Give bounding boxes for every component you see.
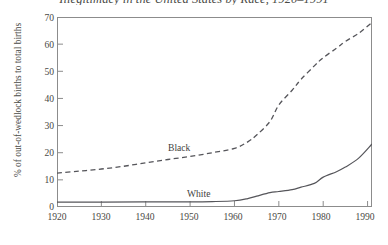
y-tick-label-10: 10 (28, 175, 54, 185)
y-axis-title: % of out-of-wedlock births to total birt… (13, 0, 23, 200)
x-tick-label-1930: 1930 (81, 211, 121, 222)
y-tick-label-70: 70 (28, 13, 54, 23)
series-annotation-white: White (187, 188, 210, 199)
series-paths (57, 22, 372, 202)
plot-canvas (57, 17, 372, 207)
y-tick-label-30: 30 (28, 121, 54, 131)
chart-title: Illegitimacy in the United States by Rac… (0, 0, 388, 5)
x-tick-label-1990: 1990 (345, 211, 385, 222)
x-tick-label-1970: 1970 (257, 211, 297, 222)
y-tick-label-60: 60 (28, 40, 54, 50)
x-tick-label-1940: 1940 (125, 211, 165, 222)
chart-figure: Illegitimacy in the United States by Rac… (0, 0, 388, 245)
series-annotation-black: Black (168, 142, 190, 153)
y-tick-label-40: 40 (28, 94, 54, 104)
x-tick-label-1950: 1950 (169, 211, 209, 222)
y-tick-label-50: 50 (28, 67, 54, 77)
series-line-black (57, 22, 372, 173)
series-line-white (57, 144, 372, 202)
x-tick-label-1960: 1960 (213, 211, 253, 222)
x-tick-label-1980: 1980 (301, 211, 341, 222)
x-tick-label-1920: 1920 (37, 211, 77, 222)
y-tick-label-20: 20 (28, 148, 54, 158)
